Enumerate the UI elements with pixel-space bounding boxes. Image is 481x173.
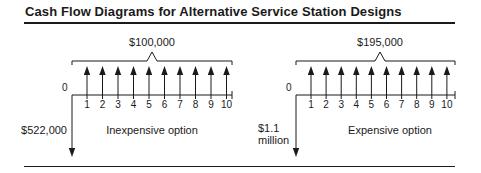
option-label: Inexpensive option — [106, 124, 198, 136]
up-arrow-icon — [130, 66, 136, 75]
period-label-4: 4 — [354, 99, 360, 110]
annual-inflow-label: $195,000 — [357, 36, 403, 48]
up-arrow-icon — [429, 66, 435, 75]
up-arrow-icon — [84, 66, 90, 75]
period-label-6: 6 — [162, 99, 168, 110]
option-label: Expensive option — [348, 124, 432, 136]
period-label-2: 2 — [100, 99, 106, 110]
annual-inflow-bracket — [72, 52, 232, 65]
cash-flow-diagrams: 012345678910$100,000$522,000Inexpensive … — [0, 0, 481, 173]
period-label-8: 8 — [193, 99, 199, 110]
up-arrow-icon — [353, 66, 359, 75]
period-label-0: 0 — [62, 82, 68, 93]
period-label-10: 10 — [441, 99, 453, 110]
down-arrow-icon — [69, 148, 75, 157]
up-arrow-icon — [383, 66, 389, 75]
period-label-4: 4 — [131, 99, 137, 110]
up-arrow-icon — [444, 66, 450, 75]
diagram-inexpensive: 012345678910$100,000$522,000Inexpensive … — [21, 36, 232, 157]
initial-cost-label: million — [258, 134, 289, 146]
period-label-5: 5 — [146, 99, 152, 110]
up-arrow-icon — [323, 66, 329, 75]
up-arrow-icon — [115, 66, 121, 75]
up-arrow-icon — [308, 66, 314, 75]
initial-cost-label: $1.1 — [258, 122, 279, 134]
up-arrow-icon — [398, 66, 404, 75]
down-arrow-icon — [293, 148, 299, 157]
up-arrow-icon — [223, 66, 229, 75]
up-arrow-icon — [177, 66, 183, 75]
diagram-expensive: 012345678910$195,000$1.1millionExpensive… — [258, 36, 455, 157]
up-arrow-icon — [99, 66, 105, 75]
period-label-0: 0 — [286, 82, 292, 93]
annual-inflow-label: $100,000 — [129, 36, 175, 48]
up-arrow-icon — [338, 66, 344, 75]
period-label-9: 9 — [429, 99, 435, 110]
up-arrow-icon — [208, 66, 214, 75]
annual-inflow-bracket — [296, 52, 455, 65]
period-label-7: 7 — [399, 99, 405, 110]
up-arrow-icon — [414, 66, 420, 75]
period-label-3: 3 — [338, 99, 344, 110]
up-arrow-icon — [368, 66, 374, 75]
up-arrow-icon — [146, 66, 152, 75]
period-label-6: 6 — [384, 99, 390, 110]
up-arrow-icon — [161, 66, 167, 75]
period-label-10: 10 — [221, 99, 233, 110]
period-label-8: 8 — [414, 99, 420, 110]
up-arrow-icon — [192, 66, 198, 75]
period-label-5: 5 — [369, 99, 375, 110]
period-label-9: 9 — [208, 99, 214, 110]
initial-cost-label: $522,000 — [21, 124, 67, 136]
period-label-7: 7 — [177, 99, 183, 110]
period-label-1: 1 — [84, 99, 90, 110]
period-label-2: 2 — [323, 99, 329, 110]
period-label-1: 1 — [308, 99, 314, 110]
period-label-3: 3 — [115, 99, 121, 110]
